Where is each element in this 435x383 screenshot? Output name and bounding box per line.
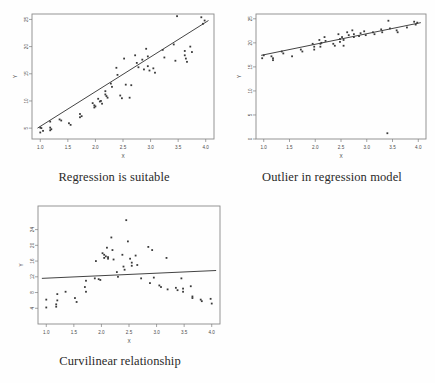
svg-text:3.5: 3.5 — [175, 145, 182, 150]
svg-text:10: 10 — [24, 98, 29, 104]
svg-text:2.5: 2.5 — [126, 330, 133, 335]
svg-text:0: 0 — [248, 137, 253, 140]
svg-text:Y: Y — [13, 74, 18, 78]
svg-text:8: 8 — [30, 291, 35, 294]
svg-text:Y: Y — [237, 74, 242, 78]
svg-text:20: 20 — [24, 44, 29, 50]
svg-text:1.0: 1.0 — [37, 145, 44, 150]
svg-text:3.0: 3.0 — [364, 145, 371, 150]
scatter-panel-regression-suitable: 1.01.52.02.53.03.54.0X510152025Y — [8, 4, 220, 194]
caption-outlier-regression: Outlier in regression model — [232, 170, 432, 185]
svg-text:1.5: 1.5 — [286, 145, 293, 150]
caption-regression-suitable: Regression is suitable — [8, 170, 220, 185]
svg-text:1.5: 1.5 — [71, 330, 78, 335]
svg-text:2.0: 2.0 — [98, 330, 105, 335]
svg-text:4: 4 — [30, 307, 35, 310]
svg-text:2.0: 2.0 — [312, 145, 319, 150]
scatter-chart-regression-suitable: 1.01.52.02.53.03.54.0X510152025Y — [8, 4, 220, 169]
svg-text:3.5: 3.5 — [389, 145, 396, 150]
scatter-chart-curvilinear: 1.01.52.02.53.03.54.0X4812162024Y — [14, 196, 226, 354]
plot-area-outlier-regression: 1.01.52.02.53.03.54.0X0510152025Y — [232, 4, 432, 169]
svg-text:1.0: 1.0 — [261, 145, 268, 150]
svg-text:5: 5 — [248, 113, 253, 116]
svg-text:25: 25 — [248, 16, 253, 22]
svg-text:1.0: 1.0 — [43, 330, 50, 335]
svg-text:X: X — [339, 154, 343, 159]
svg-text:Y: Y — [19, 263, 24, 267]
svg-text:15: 15 — [24, 71, 29, 77]
svg-text:15: 15 — [248, 64, 253, 70]
svg-text:24: 24 — [30, 227, 35, 233]
svg-text:20: 20 — [248, 40, 253, 46]
svg-text:12: 12 — [30, 274, 35, 280]
svg-text:4.0: 4.0 — [415, 145, 422, 150]
plot-area-regression-suitable: 1.01.52.02.53.03.54.0X510152025Y — [8, 4, 220, 169]
svg-text:3.5: 3.5 — [181, 330, 188, 335]
svg-text:2.5: 2.5 — [338, 145, 345, 150]
svg-text:5: 5 — [24, 126, 29, 129]
svg-text:25: 25 — [24, 16, 29, 22]
svg-text:1.5: 1.5 — [65, 145, 72, 150]
svg-text:4.0: 4.0 — [209, 330, 216, 335]
svg-text:4.0: 4.0 — [203, 145, 210, 150]
svg-text:3.0: 3.0 — [153, 330, 160, 335]
svg-text:X: X — [127, 339, 131, 344]
svg-text:16: 16 — [30, 258, 35, 264]
caption-curvilinear: Curvilinear relationship — [14, 354, 226, 369]
svg-text:X: X — [121, 154, 125, 159]
svg-text:20: 20 — [30, 242, 35, 248]
figure-sheet: 1.01.52.02.53.03.54.0X510152025Y Regress… — [0, 0, 435, 383]
scatter-panel-outlier-regression: 1.01.52.02.53.03.54.0X0510152025Y — [232, 4, 432, 194]
svg-text:2.5: 2.5 — [120, 145, 127, 150]
plot-area-curvilinear: 1.01.52.02.53.03.54.0X4812162024Y — [14, 196, 226, 354]
scatter-chart-outlier-regression: 1.01.52.02.53.03.54.0X0510152025Y — [232, 4, 432, 169]
svg-text:10: 10 — [248, 88, 253, 94]
svg-text:2.0: 2.0 — [92, 145, 99, 150]
svg-text:3.0: 3.0 — [147, 145, 154, 150]
